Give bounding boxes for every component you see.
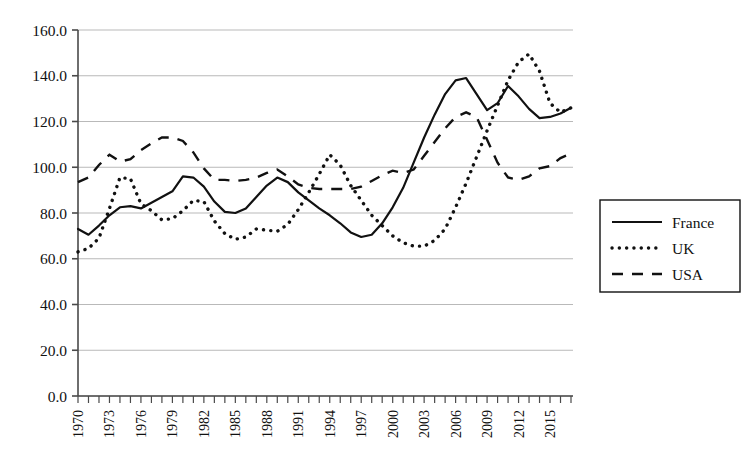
x-axis-tick-label: 1982 [197, 410, 212, 438]
legend-label-usa: USA [672, 266, 704, 283]
x-axis-tick-label: 2006 [449, 410, 464, 438]
x-axis-tick-label: 1988 [260, 410, 275, 438]
y-axis-tick-label: 160.0 [32, 22, 67, 39]
series-line-uk [78, 54, 571, 252]
chart-canvas: 0.020.040.060.080.0100.0120.0140.0160.01… [0, 0, 752, 472]
series-line-usa [78, 112, 571, 189]
x-axis-tick-label: 2003 [417, 410, 432, 438]
y-axis-tick-label: 40.0 [40, 296, 67, 313]
x-axis-tick-label: 1994 [323, 410, 338, 438]
x-axis-tick-label: 1973 [102, 410, 117, 438]
x-axis-tick-label: 1979 [165, 410, 180, 438]
legend-label-uk: UK [672, 240, 695, 257]
y-axis-tick-label: 60.0 [40, 250, 67, 267]
y-axis-tick-label: 80.0 [40, 205, 67, 222]
line-chart: 0.020.040.060.080.0100.0120.0140.0160.01… [0, 0, 752, 472]
x-axis-tick-label: 2009 [480, 410, 495, 438]
x-axis-tick-label: 1991 [291, 410, 306, 438]
x-axis-tick-label: 2015 [543, 410, 558, 438]
x-axis-tick-label: 2012 [512, 410, 527, 438]
y-axis-tick-label: 20.0 [40, 342, 67, 359]
x-axis-tick-label: 1970 [71, 410, 86, 438]
legend-label-france: France [672, 214, 714, 231]
y-axis-tick-label: 0.0 [48, 388, 68, 405]
y-axis-tick-label: 120.0 [32, 113, 67, 130]
legend-box [600, 200, 740, 292]
x-axis-tick-label: 1997 [354, 410, 369, 438]
y-axis-tick-label: 140.0 [32, 67, 67, 84]
y-axis-tick-label: 100.0 [32, 159, 67, 176]
x-axis-tick-label: 2000 [386, 410, 401, 438]
x-axis-tick-label: 1985 [228, 410, 243, 438]
x-axis-tick-label: 1976 [134, 410, 149, 438]
